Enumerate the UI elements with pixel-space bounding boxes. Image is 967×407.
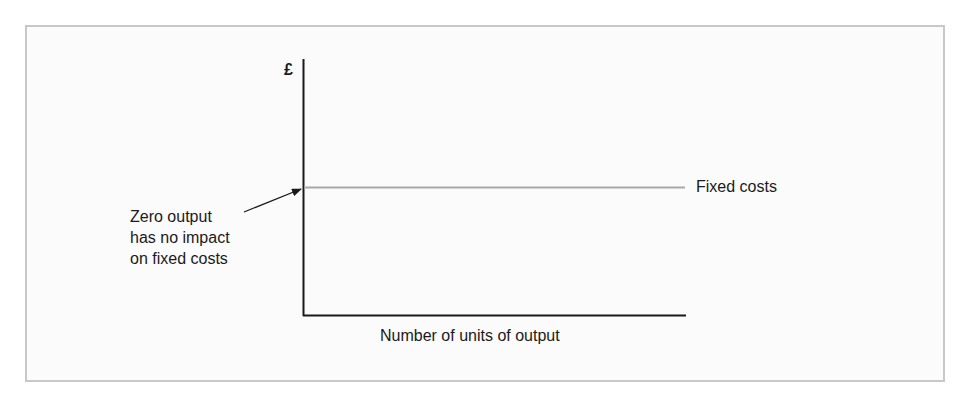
y-axis-label: £ <box>284 60 293 80</box>
zero-output-annotation: Zero output has no impact on fixed costs <box>130 206 230 269</box>
x-axis-label: Number of units of output <box>380 326 560 346</box>
annotation-arrow <box>244 189 301 212</box>
annotation-line-2: has no impact <box>130 227 230 248</box>
fixed-costs-label: Fixed costs <box>696 177 777 197</box>
annotation-line-3: on fixed costs <box>130 248 230 269</box>
annotation-line-1: Zero output <box>130 206 230 227</box>
